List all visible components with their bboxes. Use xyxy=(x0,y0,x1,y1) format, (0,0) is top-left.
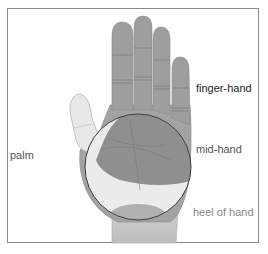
index-finger xyxy=(112,22,133,110)
label-heel-of-hand: heel of hand xyxy=(193,206,254,218)
label-palm: palm xyxy=(10,149,34,161)
little-finger xyxy=(172,57,190,125)
fingers xyxy=(112,16,190,125)
label-mid-hand: mid-hand xyxy=(196,143,242,155)
label-finger-hand: finger-hand xyxy=(196,82,252,94)
middle-finger xyxy=(134,16,152,110)
ring-finger xyxy=(153,27,170,115)
